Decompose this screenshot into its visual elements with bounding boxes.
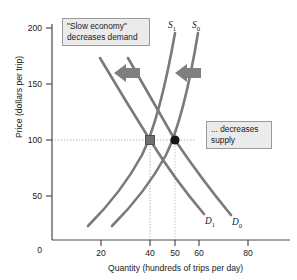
curve-label-d1-sub: 1 xyxy=(212,221,215,228)
demand-shift-arrow-shape xyxy=(114,64,140,82)
demand-annotation-box: "Slow economy" decreases demand xyxy=(62,18,150,46)
y-axis-title: Price (dollars per trip) xyxy=(14,32,24,162)
demand-shift-arrow xyxy=(114,64,140,82)
curve-label-d0: D0 xyxy=(232,217,242,229)
curve-label-s0: S0 xyxy=(192,20,200,32)
y-tick-label-0: 0 xyxy=(12,245,42,255)
guide-lines xyxy=(52,140,196,240)
x-tick-label-20: 20 xyxy=(86,248,116,258)
curve-label-d0-sub: 0 xyxy=(239,222,242,229)
supply-annotation-box: ... decreases supply xyxy=(206,121,272,149)
supply-curve-s0 xyxy=(112,33,198,226)
x-tick-label-80: 80 xyxy=(233,248,263,258)
x-axis-ticks xyxy=(101,240,248,246)
curve-label-s0-sub: 0 xyxy=(197,25,200,32)
x-axis-title: Quantity (hundreds of trips per day) xyxy=(108,263,297,273)
curve-label-s1-sub: 1 xyxy=(173,25,176,32)
curve-label-d1: D1 xyxy=(205,216,215,228)
new-equilibrium-marker xyxy=(146,136,155,145)
chart-figure: 200 150 100 50 0 20 40 50 60 80 Quantity… xyxy=(0,0,297,280)
original-equilibrium-marker xyxy=(170,135,179,144)
y-tick-label-50: 50 xyxy=(12,191,42,201)
x-tick-label-60: 60 xyxy=(184,248,214,258)
curve-label-d0-base: D xyxy=(232,217,239,227)
y-axis-ticks xyxy=(46,28,52,196)
curve-label-s1: S1 xyxy=(168,20,176,32)
curve-label-d1-base: D xyxy=(205,216,212,226)
